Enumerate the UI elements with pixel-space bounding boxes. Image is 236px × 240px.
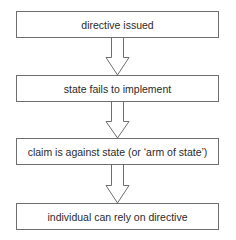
connectors (0, 0, 236, 240)
down-arrow-icon (106, 102, 129, 138)
down-arrow-icon (106, 38, 129, 75)
down-arrow-icon (106, 165, 129, 203)
